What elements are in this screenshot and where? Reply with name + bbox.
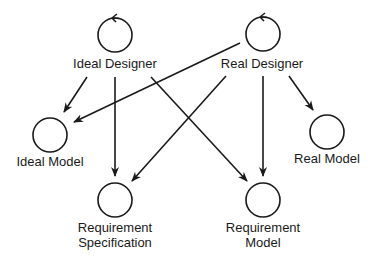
requirement-specification-label-line2: Specification: [78, 235, 152, 250]
real-designer-circle: [246, 17, 280, 51]
node-ideal-designer: Ideal Designer: [73, 14, 157, 71]
requirement-specification-label-line1: Requirement: [78, 220, 153, 235]
node-real-model: Real Model: [294, 115, 360, 166]
self-loop-arrow-icon: [260, 13, 267, 21]
real-model-circle: [310, 115, 344, 149]
diagram-canvas: Ideal Designer Real Designer Ideal Model…: [0, 0, 376, 264]
ideal-designer-label: Ideal Designer: [73, 56, 157, 71]
node-requirement-specification: Requirement Specification: [78, 183, 153, 250]
requirement-specification-circle: [98, 183, 132, 217]
requirement-model-label-line2: Model: [245, 235, 281, 250]
ideal-model-circle: [33, 118, 67, 152]
edge-real-designer-to-real-model: [289, 76, 313, 110]
edge-ideal-designer-to-ideal-model: [64, 77, 87, 112]
self-loop-arrow-icon: [112, 14, 119, 22]
ideal-designer-circle: [98, 18, 132, 52]
real-designer-label: Real Designer: [221, 56, 304, 71]
edge-ideal-designer-to-requirement-model: [151, 77, 247, 181]
requirement-model-circle: [246, 183, 280, 217]
edge-real-designer-to-requirement-specification: [132, 76, 226, 181]
node-real-designer: Real Designer: [221, 13, 304, 71]
edge-real-designer-to-ideal-model: [74, 43, 240, 122]
node-requirement-model: Requirement Model: [226, 183, 301, 250]
real-model-label: Real Model: [294, 151, 360, 166]
node-ideal-model: Ideal Model: [16, 118, 83, 169]
ideal-model-label: Ideal Model: [16, 154, 83, 169]
requirement-model-label-line1: Requirement: [226, 220, 301, 235]
